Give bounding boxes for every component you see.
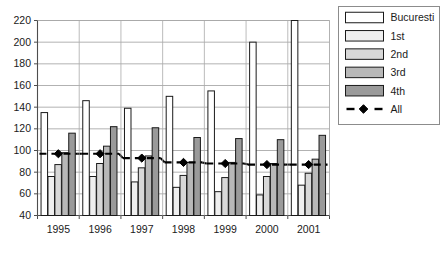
bar: [222, 178, 229, 216]
legend-swatch: [346, 12, 384, 23]
legend-label: 4th: [391, 85, 406, 97]
y-tick-label: 160: [13, 79, 31, 91]
bar: [263, 177, 270, 216]
legend-swatch: [346, 85, 384, 96]
bar: [69, 133, 76, 215]
chart-container: 406080100120140160180200220 199519961997…: [0, 0, 444, 257]
y-tick-label: 180: [13, 57, 31, 69]
bar: [215, 192, 222, 216]
legend-label: 2nd: [391, 48, 409, 60]
bar: [48, 177, 55, 216]
bar: [257, 195, 264, 216]
legend-box: [339, 7, 440, 125]
legend-swatch: [346, 49, 384, 60]
legend-label: Bucuresti: [391, 11, 435, 23]
y-tick-label: 60: [19, 187, 31, 199]
bar: [138, 168, 145, 216]
bar: [194, 138, 201, 216]
legend-label: 1st: [391, 30, 405, 42]
bar: [312, 159, 319, 215]
bar: [97, 164, 104, 216]
bar: [166, 96, 173, 215]
x-tick-label: 2000: [255, 223, 279, 235]
y-tick-label: 220: [13, 14, 31, 26]
bar: [90, 177, 97, 216]
bar: [187, 162, 194, 215]
y-tick-label: 100: [13, 144, 31, 156]
bar: [110, 127, 117, 216]
x-tick-label: 1999: [214, 223, 238, 235]
x-tick-label: 1995: [47, 223, 71, 235]
y-tick-label: 200: [13, 36, 31, 48]
bar: [55, 165, 62, 216]
bar: [180, 175, 187, 215]
bar: [298, 185, 305, 215]
bar: [208, 91, 215, 216]
grouped-bar-chart: 406080100120140160180200220 199519961997…: [0, 0, 444, 257]
bar: [270, 164, 277, 216]
bar: [173, 187, 180, 215]
bar: [62, 153, 69, 216]
bar: [236, 139, 243, 216]
legend-label: All: [391, 103, 403, 115]
x-tick-label: 1997: [130, 223, 154, 235]
bar: [104, 146, 111, 215]
bar: [131, 182, 138, 216]
y-tick-label: 140: [13, 101, 31, 113]
bar: [250, 42, 257, 215]
y-tick-label: 120: [13, 122, 31, 134]
y-tick-label: 40: [19, 209, 31, 221]
legend-swatch: [346, 67, 384, 78]
bar: [41, 113, 48, 216]
chart-legend: Bucuresti1st2nd3rd4thAll: [339, 7, 440, 125]
x-tick-label: 1998: [172, 223, 196, 235]
bar: [124, 108, 131, 215]
bar: [291, 21, 298, 216]
y-tick-label: 80: [19, 166, 31, 178]
bar: [305, 173, 312, 215]
bar: [277, 140, 284, 216]
legend-swatch: [346, 31, 384, 42]
bar: [229, 162, 236, 215]
bar: [83, 101, 90, 216]
bar: [145, 156, 152, 216]
bar: [319, 135, 326, 215]
x-tick-label: 2001: [297, 223, 321, 235]
x-tick-label: 1996: [88, 223, 112, 235]
bar: [152, 128, 159, 216]
legend-label: 3rd: [391, 66, 406, 78]
